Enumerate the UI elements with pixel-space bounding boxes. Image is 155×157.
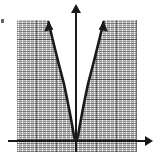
parabola-curve [0,0,155,157]
parabola-graph-figure [0,0,155,157]
curve-arrow-right-icon [99,21,108,32]
curve-arrow-left-icon [44,21,53,32]
